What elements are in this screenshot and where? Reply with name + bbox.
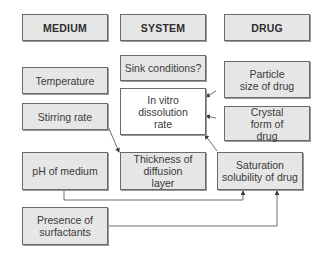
node-crystal-form-label: Crystal form of drug [241, 106, 293, 142]
node-particle-size-label: Particle size of drug [239, 68, 295, 92]
header-system: SYSTEM [120, 14, 206, 41]
header-medium: MEDIUM [22, 14, 108, 41]
header-medium-label: MEDIUM [43, 22, 87, 34]
node-stirring-rate-label: Stirring rate [38, 111, 92, 123]
header-drug: DRUG [224, 14, 310, 41]
node-dissolution-rate-label: In vitro dissolution rate [133, 94, 193, 130]
node-dissolution-rate: In vitro dissolution rate [120, 88, 206, 135]
node-saturation-solubility-label: Saturation solubility of drug [222, 159, 298, 183]
node-sink-conditions: Sink conditions? [120, 55, 206, 81]
node-temperature: Temperature [22, 67, 108, 94]
node-temperature-label: Temperature [36, 75, 95, 87]
node-saturation-solubility: Saturation solubility of drug [217, 152, 303, 190]
node-ph-medium-label: pH of medium [32, 165, 97, 177]
node-sink-conditions-label: Sink conditions? [125, 62, 201, 74]
node-surfactants: Presence of surfactants [22, 207, 108, 245]
node-particle-size: Particle size of drug [224, 61, 310, 98]
node-diffusion-layer-label: Thickness of diffusion layer [131, 153, 195, 189]
node-crystal-form: Crystal form of drug [224, 106, 310, 141]
node-diffusion-layer: Thickness of diffusion layer [120, 152, 206, 190]
header-system-label: SYSTEM [141, 22, 185, 34]
header-drug-label: DRUG [251, 22, 283, 34]
node-stirring-rate: Stirring rate [22, 103, 108, 130]
node-surfactants-label: Presence of surfactants [35, 214, 95, 238]
node-ph-medium: pH of medium [22, 152, 108, 190]
